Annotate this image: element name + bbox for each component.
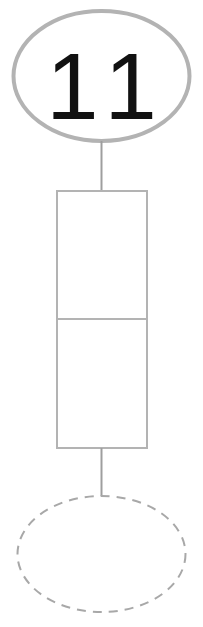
- bottom-ellipse-node[interactable]: [18, 496, 186, 612]
- diagram-canvas: 11: [0, 0, 203, 627]
- top-ellipse-label: 11: [0, 40, 203, 134]
